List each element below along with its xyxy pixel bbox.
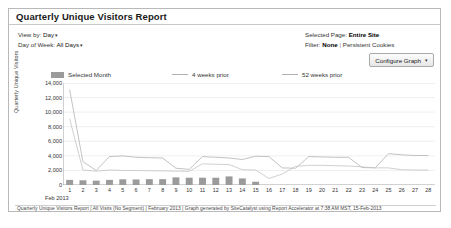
day-of-week-control[interactable]: Day of Week: All Days▾ — [18, 41, 83, 49]
x-axis-tick-label: 11 — [200, 187, 206, 193]
page-title: Quarterly Unique Visitors Report — [16, 11, 167, 22]
day-of-week-label: Day of Week: — [18, 41, 55, 48]
screenshot-root: Quarterly Unique Visitors Report View by… — [0, 0, 451, 228]
selected-page-value: Entire Site — [349, 31, 380, 38]
x-axis-tick-label: 15 — [253, 187, 259, 193]
x-axis-tick-label: 3 — [95, 187, 98, 193]
chevron-down-icon[interactable]: ▾ — [80, 42, 83, 48]
y-axis-tick-label: 0 — [59, 182, 62, 188]
filter-value: None — [322, 41, 337, 48]
chart-legend: Selected Month 4 weeks prior 52 weeks pr… — [27, 69, 427, 81]
x-axis-tick-label: 24 — [372, 187, 378, 193]
x-axis-tick-label: 12 — [213, 187, 219, 193]
x-axis-ticks: 1234567891011121314151617181920212223242… — [63, 187, 435, 197]
y-axis-tick-label: 12,000 — [45, 95, 62, 101]
x-axis-tick-label: 25 — [386, 187, 392, 193]
x-axis-tick-label: 26 — [399, 187, 405, 193]
y-axis-tick-label: 6,000 — [48, 138, 62, 144]
legend-item-selected-month[interactable]: Selected Month — [51, 71, 111, 78]
chevron-down-icon[interactable]: ▾ — [55, 32, 58, 38]
view-by-value: Day — [43, 31, 54, 38]
x-axis-tick-label: 6 — [135, 187, 138, 193]
y-axis-tick-label: 2,000 — [48, 167, 62, 173]
view-by-control[interactable]: View by: Day▾ — [18, 31, 58, 39]
x-axis-tick-label: 28 — [425, 187, 431, 193]
y-axis-tick-label: 8,000 — [48, 124, 62, 130]
x-axis-tick-label: 1 — [68, 187, 71, 193]
legend-swatch-icon — [51, 72, 64, 78]
x-axis-tick-label: 9 — [174, 187, 177, 193]
chevron-down-icon[interactable]: ▾ — [425, 57, 428, 63]
filter-extra: Persistent Cookies — [343, 41, 395, 48]
legend-label: Selected Month — [68, 71, 111, 78]
x-axis-tick-label: 14 — [239, 187, 245, 193]
legend-label: 4 weeks prior — [192, 71, 229, 78]
configure-graph-label: Configure Graph — [375, 57, 421, 64]
x-axis-tick-label: 23 — [359, 187, 365, 193]
x-axis-tick-label: 19 — [306, 187, 312, 193]
legend-item-4-weeks-prior[interactable]: 4 weeks prior — [172, 71, 229, 78]
x-axis-tick-label: 13 — [226, 187, 232, 193]
selected-page-label: Selected Page: — [305, 31, 347, 38]
report-panel: Quarterly Unique Visitors Report View by… — [8, 8, 441, 212]
x-axis-tick-label: 4 — [108, 187, 111, 193]
configure-graph-button[interactable]: Configure Graph ▾ — [369, 53, 434, 67]
x-axis-tick-label: 20 — [319, 187, 325, 193]
y-axis-tick-label: 10,000 — [45, 109, 62, 115]
x-axis-tick-label: 5 — [121, 187, 124, 193]
chart-footer-caption: Quarterly Unique Visitors Report | All V… — [17, 206, 382, 211]
x-axis-tick-label: 10 — [186, 187, 192, 193]
selected-page-info: Selected Page: Entire Site — [305, 31, 379, 39]
y-axis-tick-label: 14,000 — [45, 80, 62, 86]
view-by-label: View by: — [18, 31, 41, 38]
x-axis-tick-label: 8 — [161, 187, 164, 193]
x-axis-tick-label: 21 — [332, 187, 338, 193]
x-axis-tick-label: 7 — [148, 187, 151, 193]
x-axis-tick-label: 18 — [293, 187, 299, 193]
x-axis-tick-label: 17 — [279, 187, 285, 193]
x-axis-tick-label: 16 — [266, 187, 272, 193]
filter-info: Filter: None | Persistent Cookies — [305, 41, 394, 49]
legend-line-icon — [282, 74, 298, 75]
legend-line-icon — [172, 74, 188, 75]
legend-label: 52 weeks prior — [302, 71, 342, 78]
chart-plot-area: Quarterly Unique Visitors 02,0004,0006,0… — [15, 83, 435, 197]
x-axis-title: Feb 2013 — [45, 195, 69, 201]
x-axis-tick-label: 2 — [81, 187, 84, 193]
legend-item-52-weeks-prior[interactable]: 52 weeks prior — [282, 71, 342, 78]
y-axis-ticks: 02,0004,0006,0008,00010,00012,00014,000 — [15, 83, 62, 197]
chart-svg — [63, 83, 435, 185]
day-of-week-value: All Days — [56, 41, 79, 48]
filter-separator: | — [339, 41, 341, 48]
x-axis-tick-label: 22 — [346, 187, 352, 193]
y-axis-tick-label: 4,000 — [48, 153, 62, 159]
x-axis-tick-label: 27 — [412, 187, 418, 193]
report-title-bar: Quarterly Unique Visitors Report — [9, 9, 440, 25]
filter-label: Filter: — [305, 41, 320, 48]
